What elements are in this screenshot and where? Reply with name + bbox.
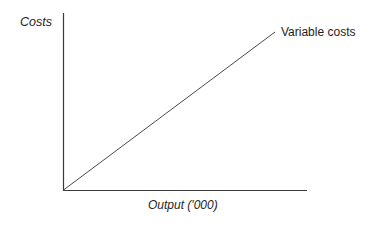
series-label: Variable costs <box>281 25 355 39</box>
variable-costs-chart: Costs Variable costs Output ('000) <box>0 0 380 226</box>
x-axis-label: Output ('000) <box>148 198 218 212</box>
y-axis-label: Costs <box>20 15 52 29</box>
variable-costs-line <box>64 32 276 190</box>
